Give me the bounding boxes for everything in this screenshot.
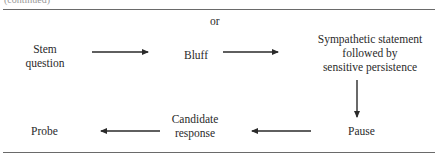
arrows <box>0 0 437 158</box>
